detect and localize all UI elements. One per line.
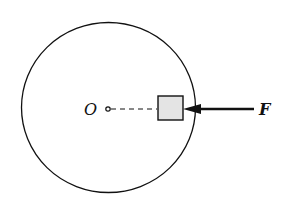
- center-point: [106, 107, 110, 111]
- force-arrowhead-icon: [183, 104, 201, 114]
- block: [158, 96, 183, 120]
- diagram-canvas: O F: [0, 0, 296, 205]
- force-label: F: [258, 100, 272, 119]
- center-label: O: [84, 100, 97, 119]
